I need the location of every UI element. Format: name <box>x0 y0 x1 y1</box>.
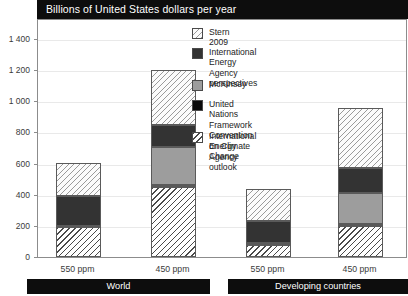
y-tick-mark <box>34 226 37 227</box>
bar-stack <box>151 70 196 257</box>
bar-stack <box>338 108 383 257</box>
legend-swatch-iea-outlook-icon <box>192 132 203 143</box>
y-tick-mark <box>34 195 37 196</box>
group-label-bar: World <box>27 279 210 294</box>
y-tick-mark <box>34 39 37 40</box>
bar-stack <box>246 189 291 258</box>
legend-swatch-iea-persp-icon <box>192 48 203 59</box>
bar-segment-mckinsey <box>338 193 383 224</box>
bar-stack <box>56 163 101 257</box>
y-tick-label: 1 000 <box>0 96 30 106</box>
y-tick-label: 800 <box>0 127 30 137</box>
bar-segment-iea-outlook <box>151 187 196 257</box>
legend-label: McKinsey <box>209 79 246 89</box>
bar-segment-stern <box>338 108 383 169</box>
bar-segment-iea-outlook <box>338 226 383 257</box>
chart-root: Billions of United States dollars per ye… <box>0 0 408 296</box>
group-label: World <box>27 279 210 294</box>
legend-swatch-mckinsey-icon <box>192 80 203 91</box>
bar-segment-iea-persp <box>338 168 383 193</box>
bar-segment-iea-persp <box>56 196 101 226</box>
chart-title: Billions of United States dollars per ye… <box>46 3 236 15</box>
y-tick-label: 1 200 <box>0 65 30 75</box>
x-tick-label: 450 ppm <box>325 264 394 274</box>
y-tick-mark <box>34 101 37 102</box>
y-tick-label: 1 400 <box>0 34 30 44</box>
bar-segment-iea-outlook <box>246 245 291 257</box>
y-tick-mark <box>34 70 37 71</box>
y-tick-mark <box>34 164 37 165</box>
y-tick-mark <box>34 257 37 258</box>
y-tick-label: 200 <box>0 221 30 231</box>
chart-title-bar: Billions of United States dollars per ye… <box>37 0 408 19</box>
x-tick-label: 550 ppm <box>43 264 112 274</box>
bar-segment-mckinsey <box>151 147 196 185</box>
bar-segment-stern <box>56 163 101 196</box>
x-tick-label: 550 ppm <box>233 264 302 274</box>
y-tick-label: 0 <box>0 252 30 262</box>
bar-segment-iea-outlook <box>56 227 101 257</box>
bar-segment-iea-persp <box>151 125 196 148</box>
legend-swatch-stern-icon <box>192 28 203 39</box>
bar-segment-stern <box>151 70 196 125</box>
x-tick-label: 450 ppm <box>138 264 207 274</box>
group-label: Developing countries <box>228 279 408 294</box>
legend-swatch-unfccc-icon <box>192 100 203 111</box>
y-tick-label: 600 <box>0 159 30 169</box>
y-tick-label: 400 <box>0 190 30 200</box>
y-tick-mark <box>34 132 37 133</box>
group-label-bar: Developing countries <box>228 279 408 294</box>
bar-segment-iea-persp <box>246 221 291 243</box>
legend-label: International Energy Agency outlook <box>209 131 256 173</box>
bar-segment-stern <box>246 189 291 222</box>
legend-label: Stern 2009 <box>209 27 230 48</box>
